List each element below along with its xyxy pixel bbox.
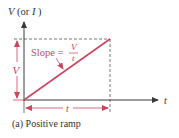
caption: (a) Positive ramp xyxy=(12,118,81,130)
width-label: t xyxy=(66,103,69,114)
slope-numerator: V xyxy=(71,42,78,52)
slope-pointer-arrow xyxy=(56,58,63,69)
x-axis-label: t xyxy=(164,95,167,106)
ramp-diagram: V (or I ) t V t Slope = V t (a) Positive… xyxy=(0,0,179,138)
slope-label: Slope = xyxy=(31,47,64,58)
y-axis-label: V (or I ) xyxy=(8,6,42,18)
slope-denominator: t xyxy=(72,53,75,63)
